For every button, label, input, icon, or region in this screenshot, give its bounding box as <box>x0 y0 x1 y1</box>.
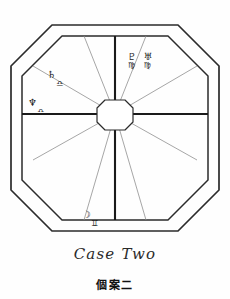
center-hub-octagon <box>97 100 133 130</box>
chart-caption-english: Case Two <box>0 245 230 263</box>
sign-glyph-libra-left: ♎ <box>28 108 56 116</box>
placement-pluto-uranus-in-virgo: ♇ ♅ ♍ ♍ <box>122 52 160 70</box>
placement-neptune-in-libra: ♆ ♎ <box>28 98 56 116</box>
placement-moon-lower: ☽ ♊ <box>82 210 110 228</box>
sign-glyph-lower: ♊ <box>82 220 110 228</box>
sign-glyph-libra-upper: ♎ <box>47 80 75 88</box>
chart-svg <box>0 14 230 242</box>
page-canvas: ♇ ♅ ♍ ♍ ♄ ♎ ♆ ♎ ☽ ♊ Case Two 個案二 <box>0 0 230 299</box>
placement-saturn-in-libra: ♄ ♎ <box>47 70 75 88</box>
astrological-chart-figure: ♇ ♅ ♍ ♍ ♄ ♎ ♆ ♎ ☽ ♊ <box>0 14 230 242</box>
chart-caption-chinese: 個案二 <box>0 276 230 292</box>
sign-glyphs-virgo-virgo: ♍ ♍ <box>122 62 160 70</box>
